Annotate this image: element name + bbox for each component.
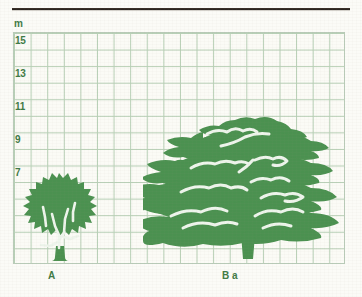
x-label-tree-b: B a	[222, 270, 238, 281]
y-axis-unit-label: m	[14, 19, 23, 29]
y-tick-label-7: 7	[15, 167, 20, 178]
y-tick-label-9: 9	[15, 134, 20, 145]
tree-silhouette-b-cedar	[143, 116, 349, 266]
y-tick-label-15: 15	[15, 35, 26, 46]
y-tick-label-13: 13	[15, 68, 26, 79]
top-rule-divider	[12, 8, 350, 10]
tree-height-scale-figure: m 15 13 11 9 7	[0, 0, 362, 297]
x-label-tree-a: A	[48, 270, 55, 281]
tree-silhouette-a	[18, 170, 102, 265]
y-tick-label-11: 11	[15, 101, 25, 112]
